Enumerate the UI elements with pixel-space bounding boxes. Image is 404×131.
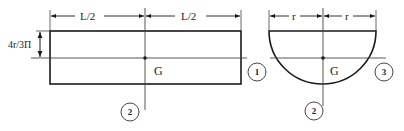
centroid-label-semicircle: G xyxy=(330,64,339,78)
dimension-centroid-offset: 4r/3Π xyxy=(8,31,50,57)
svg-text:L/2: L/2 xyxy=(181,10,196,22)
axis-2-marker-semicircle: 2 xyxy=(305,102,323,120)
dimension-right-radius: r xyxy=(324,10,375,22)
svg-text:2: 2 xyxy=(312,106,317,116)
svg-text:1: 1 xyxy=(255,67,260,77)
axis-3-marker: 3 xyxy=(375,63,393,81)
svg-text:L/2: L/2 xyxy=(80,10,95,22)
dimension-right-half: L/2 xyxy=(146,10,240,22)
dimension-left-half: L/2 xyxy=(51,10,144,22)
centroid-point xyxy=(143,56,147,60)
rectangle-figure: G L/2 L/2 4r/3Π xyxy=(8,8,266,121)
svg-text:3: 3 xyxy=(382,67,387,77)
semicircle-figure: G r r 3 2 xyxy=(269,8,393,120)
svg-text:2: 2 xyxy=(128,107,133,117)
axis-1-marker: 1 xyxy=(248,63,266,81)
svg-text:r: r xyxy=(345,10,349,22)
axis-2-marker: 2 xyxy=(121,103,139,121)
centroid-label: G xyxy=(154,64,163,78)
centroid-axes-diagram: G L/2 L/2 4r/3Π xyxy=(0,0,404,131)
svg-text:r: r xyxy=(292,10,296,22)
svg-text:4r/3Π: 4r/3Π xyxy=(8,39,31,50)
dimension-left-radius: r xyxy=(270,10,322,22)
centroid-point-semicircle xyxy=(321,56,325,60)
